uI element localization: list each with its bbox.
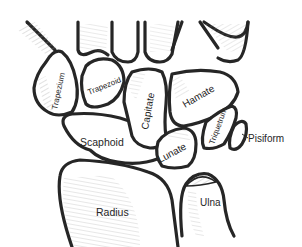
label-scaphoid: Scaphoid [80,136,124,148]
wrist-bones-diagram: Radius Ulna Scaphoid Trapezium Trapezoid… [0,0,302,247]
ulna-bone: Ulna [181,174,234,236]
label-radius: Radius [96,206,129,218]
label-pisiform: Pisiform [248,133,284,144]
radius-bone: Radius [59,160,178,247]
metacarpal-3 [112,22,138,62]
trapezium-bone: Trapezium [34,51,77,115]
label-ulna: Ulna [200,197,221,208]
pisiform-bone: Pisiform [230,121,285,149]
trapezoid-bone: Trapezoid [82,59,125,107]
